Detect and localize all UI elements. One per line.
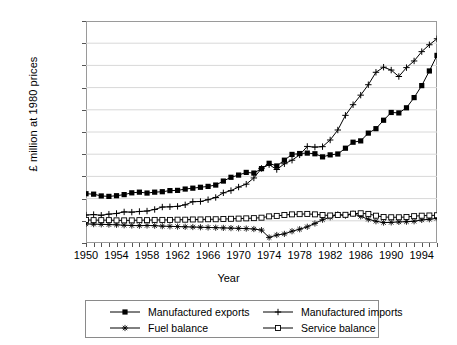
x-tick-mark [307, 243, 308, 247]
legend-item[interactable]: Fuel balance [108, 322, 208, 334]
legend-label: Service balance [301, 322, 376, 334]
x-tick-mark [292, 243, 293, 247]
x-tick-mark [94, 243, 95, 247]
y-axis-title: £ million at 1980 prices [27, 29, 39, 199]
chart-figure: £ million at 1980 prices 90,00080,00070,… [0, 0, 457, 345]
x-tick-mark [200, 243, 201, 247]
legend-marker-asterisk-icon [108, 322, 142, 334]
x-tick-mark [384, 243, 385, 247]
legend-label: Manufactured exports [148, 306, 250, 318]
x-tick-mark [139, 243, 140, 247]
x-tick-mark [315, 243, 316, 247]
y-tick-mark [82, 110, 86, 111]
x-tick-mark [406, 243, 407, 247]
legend-marker-open-square-icon [261, 322, 295, 334]
x-tick-mark [208, 243, 209, 247]
y-tick-mark [82, 132, 86, 133]
x-tick-mark [162, 243, 163, 247]
legend-item[interactable]: Manufactured exports [108, 306, 250, 318]
x-tick-mark [193, 243, 194, 247]
x-tick-mark [376, 243, 377, 247]
x-tick-label: 1994 [399, 249, 445, 261]
x-tick-mark [284, 243, 285, 247]
chart-canvas [86, 21, 437, 243]
x-tick-mark [368, 243, 369, 247]
legend-label: Manufactured imports [301, 306, 403, 318]
x-tick-mark [147, 243, 148, 247]
x-tick-mark [86, 243, 87, 247]
chart-legend: Manufactured exportsManufactured imports… [85, 300, 379, 338]
x-tick-mark [323, 243, 324, 247]
x-tick-mark [185, 243, 186, 247]
x-tick-mark [300, 243, 301, 247]
x-tick-mark [178, 243, 179, 247]
x-tick-mark [155, 243, 156, 247]
x-tick-mark [422, 243, 423, 247]
x-tick-mark [353, 243, 354, 247]
x-tick-mark [345, 243, 346, 247]
series-manufactured-exports [86, 53, 437, 199]
x-tick-mark [124, 243, 125, 247]
x-tick-mark [437, 243, 438, 247]
x-tick-mark [101, 243, 102, 247]
x-tick-mark [330, 243, 331, 247]
x-tick-mark [246, 243, 247, 247]
legend-marker-filled-square-icon [108, 306, 142, 318]
x-tick-mark [277, 243, 278, 247]
x-tick-mark [109, 243, 110, 247]
y-tick-mark [82, 43, 86, 44]
y-tick-mark [82, 154, 86, 155]
y-tick-mark [82, 88, 86, 89]
x-tick-mark [338, 243, 339, 247]
x-tick-mark [262, 243, 263, 247]
legend-item[interactable]: Manufactured imports [261, 306, 403, 318]
y-tick-mark [82, 199, 86, 200]
x-tick-mark [170, 243, 171, 247]
y-tick-mark [82, 221, 86, 222]
x-tick-mark [223, 243, 224, 247]
x-tick-mark [429, 243, 430, 247]
legend-label: Fuel balance [148, 322, 208, 334]
x-tick-mark [414, 243, 415, 247]
plot-area: 90,00080,00070,00060,00050,00040,00030,0… [86, 21, 437, 243]
x-tick-mark [269, 243, 270, 247]
x-tick-mark [132, 243, 133, 247]
legend-item[interactable]: Service balance [261, 322, 376, 334]
y-tick-mark [82, 65, 86, 66]
x-tick-mark [231, 243, 232, 247]
y-tick-mark [82, 21, 86, 22]
x-tick-mark [391, 243, 392, 247]
x-tick-mark [399, 243, 400, 247]
y-tick-mark [82, 176, 86, 177]
x-tick-mark [254, 243, 255, 247]
legend-marker-plus-icon [261, 306, 295, 318]
x-tick-mark [117, 243, 118, 247]
x-tick-mark [216, 243, 217, 247]
x-tick-mark [361, 243, 362, 247]
x-tick-mark [239, 243, 240, 247]
x-axis-title: Year [0, 272, 457, 284]
